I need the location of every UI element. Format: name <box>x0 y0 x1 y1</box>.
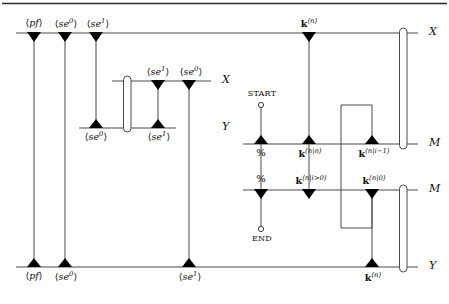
label-se0-midy: ⟨se0⟩ <box>85 131 107 142</box>
axis-label-mid-x: X <box>222 74 230 85</box>
marker-se0-midy <box>89 119 103 128</box>
label-knig0-lower: k(n|i>0) <box>296 175 327 186</box>
end-circle-icon <box>258 226 263 231</box>
axis-label-bottom-y: Y <box>429 260 436 271</box>
label-se1-top: ⟨se1⟩ <box>87 18 109 29</box>
msc-diagram: ⟨pf⟩ ⟨se0⟩ ⟨se1⟩ k(n) X ⟨se1⟩ ⟨se0⟩ X ⟨s… <box>0 0 449 304</box>
marker-knn-upper <box>302 135 316 144</box>
marker-pct-lower <box>254 189 268 199</box>
marker-pf-bot <box>27 258 41 267</box>
axis-label-top-x: X <box>429 26 437 37</box>
marker-kn-bot <box>365 258 379 267</box>
axis-label-lower-m: M <box>429 183 440 194</box>
marker-kn-top <box>302 32 316 42</box>
label-pct-lower: % <box>256 174 266 184</box>
marker-se0-bot <box>58 258 72 267</box>
axis-label-upper-m: M <box>429 137 440 148</box>
label-se1-midy: ⟨se1⟩ <box>148 131 170 142</box>
label-se0-midx: ⟨se0⟩ <box>180 66 202 77</box>
marker-se1-midx <box>151 80 165 90</box>
label-kn0-lower: k(n|0) <box>363 175 386 186</box>
label-start: START <box>248 90 276 98</box>
marker-pf-top <box>27 32 41 42</box>
label-se0-top: ⟨se0⟩ <box>55 18 77 29</box>
label-pf-bot: ⟨pf⟩ <box>25 271 42 281</box>
label-knn-upper: k(n|n) <box>298 148 321 159</box>
axis-label-mid-y: Y <box>222 121 229 132</box>
marker-se1-top <box>89 32 103 42</box>
label-se1-midx: ⟨se1⟩ <box>147 66 169 77</box>
start-circle-icon <box>258 102 263 107</box>
marker-se0-midx <box>182 80 196 90</box>
marker-se1-midy <box>151 119 165 128</box>
marker-kn0-lower <box>365 189 379 199</box>
label-pct-upper: % <box>256 148 266 158</box>
marker-se1-bot <box>182 258 196 267</box>
label-kn-top: k(n) <box>301 18 317 29</box>
marker-knim1-upper <box>365 135 379 144</box>
marker-knig0-lower <box>302 189 316 199</box>
capsule-mid-xy <box>124 76 132 132</box>
label-knim1-upper: k(n|i−1) <box>359 148 390 159</box>
label-kn-bot: k(n) <box>365 272 381 283</box>
marker-se0-top <box>58 32 72 42</box>
label-pf-top: ⟨pf⟩ <box>25 18 42 28</box>
capsule-topx-upperm <box>400 28 408 149</box>
upper-loop-bracket <box>341 105 372 228</box>
label-se0-bot: ⟨se0⟩ <box>55 271 77 282</box>
label-end: END <box>252 235 272 243</box>
label-se1-bot: ⟨se1⟩ <box>179 271 201 282</box>
marker-pct-upper <box>254 135 268 144</box>
capsule-lowerm-bottomy <box>400 185 408 272</box>
